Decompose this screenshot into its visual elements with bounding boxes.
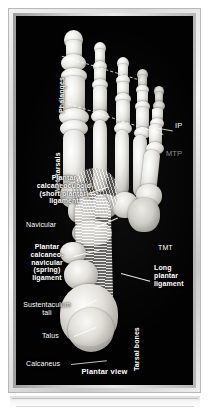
figure-caption: Plantar view xyxy=(16,367,193,376)
label-tarsal-bones: Tarsal bones xyxy=(133,327,141,371)
label-navicular: Navicular xyxy=(26,221,56,229)
label-mtp: MTP xyxy=(166,150,182,158)
frame-reflection-line-top xyxy=(12,398,198,399)
leader-calcaneus xyxy=(71,360,107,365)
label-long-plantar-ligament: Long plantar ligament xyxy=(154,264,184,287)
label-tmt: TMT xyxy=(158,244,173,252)
label-plantar-calcaneonavicular-ligament: Plantar calcaneo- navicular (spring) lig… xyxy=(19,243,75,282)
label-phalanges: Phalanges xyxy=(58,77,66,113)
leader-long-plantar-ligament xyxy=(121,273,150,282)
foot-skeleton-photograph: Phalanges Metatarsals Tarsal bones IP MT… xyxy=(16,16,193,385)
label-plantar-calcaneocuboid-ligament: Plantar calcaneocuboid (short plantar) l… xyxy=(18,174,110,205)
frame-reflection-line-bottom xyxy=(16,406,194,407)
bone-cuboid xyxy=(128,198,160,232)
label-talus: Talus xyxy=(42,332,59,340)
label-ip: IP xyxy=(175,122,182,130)
label-sustentaculum-tali: Sustentaculum tali xyxy=(16,301,78,317)
figure-plate: Phalanges Metatarsals Tarsal bones IP MT… xyxy=(0,0,211,416)
